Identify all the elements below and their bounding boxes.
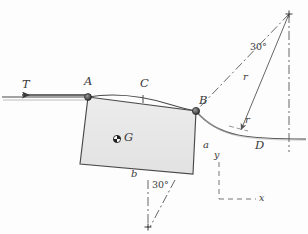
block-body	[80, 97, 196, 174]
label-point-b: B	[199, 95, 207, 107]
terrain-shadow	[198, 113, 306, 140]
label-radius-right: r	[245, 115, 250, 125]
radius-arrow-to-surface	[241, 14, 289, 130]
label-axis-y: y	[214, 150, 219, 160]
block-outline	[80, 97, 196, 174]
reference-axes	[219, 162, 256, 199]
label-tension: T	[22, 79, 30, 91]
label-center-of-gravity: G	[124, 132, 133, 144]
label-radius-left: r	[243, 72, 248, 82]
pin-marker-a	[85, 94, 92, 101]
center-of-gravity-symbol	[113, 135, 120, 142]
label-dim-a: a	[203, 140, 209, 150]
label-point-c: C	[140, 78, 149, 90]
label-point-d: D	[255, 140, 264, 152]
radius-line-to-b	[196, 14, 289, 111]
label-angle-bottom: 30°	[152, 180, 169, 190]
engineering-diagram: T A C B D G a b r r 30° 30° y x	[0, 0, 308, 234]
surface-tangent-tick	[229, 126, 248, 131]
label-angle-top: 30°	[250, 42, 267, 52]
label-dim-b: b	[131, 169, 137, 179]
label-point-a: A	[84, 76, 92, 88]
label-axis-x: x	[259, 193, 264, 203]
